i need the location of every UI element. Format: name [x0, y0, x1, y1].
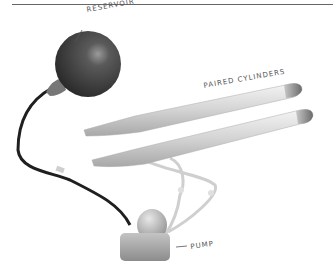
paired-cylinders: [84, 83, 313, 166]
tubing-connector: [178, 187, 184, 193]
tubing-connector: [208, 190, 214, 196]
reservoir: [46, 31, 121, 97]
pump-leader-line: [176, 246, 187, 247]
implant-illustration: [0, 0, 333, 276]
pump: [120, 209, 170, 261]
